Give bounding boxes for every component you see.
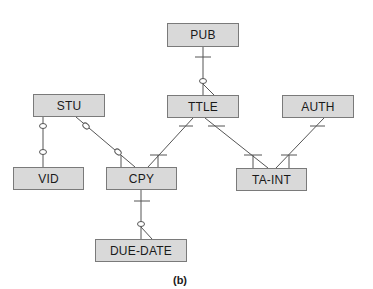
entity-label: TTLE [188,100,218,114]
entity-cpy: CPY [106,167,177,190]
entity-pub: PUB [167,23,239,47]
entity-label: PUB [190,28,215,42]
entity-label: AUTH [301,100,334,114]
rel-stu-vid [40,117,47,167]
entity-vid: VID [13,167,84,190]
entity-label: TA-INT [252,173,291,187]
rel-cpy-duedate [134,190,152,239]
entity-auth: AUTH [282,95,354,118]
entity-label: CPY [129,172,154,186]
entity-due-date: DUE-DATE [95,239,187,262]
rel-ttle-cpy [148,118,193,167]
rel-pub-ttle [195,47,214,95]
entity-ta-int: TA-INT [236,168,307,191]
entity-ttle: TTLE [167,95,239,118]
figure-caption: (b) [168,274,192,286]
rel-stu-cpy [76,117,135,167]
entity-label: STU [57,99,82,113]
entity-label: VID [38,172,59,186]
entity-stu: STU [33,94,105,117]
rel-ttle-taint [205,118,268,168]
rel-auth-taint [276,118,325,168]
entity-label: DUE-DATE [110,244,172,258]
